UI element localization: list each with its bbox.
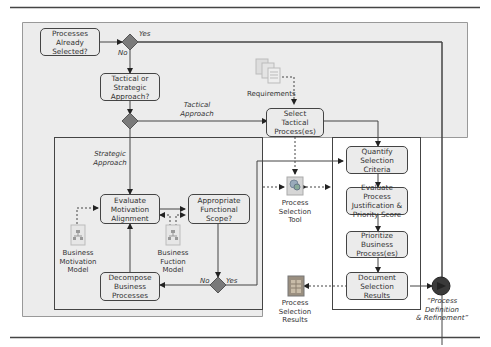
node-select-tactical: Select Tactical Process(es) bbox=[266, 108, 324, 137]
node-quantify-criteria: Quantify Selection Criteria bbox=[346, 146, 408, 174]
label-yes-top: Yes bbox=[139, 30, 150, 39]
node-document-results: Document Selection Results bbox=[346, 272, 408, 300]
label-requirements: Requirements bbox=[247, 90, 293, 99]
label-tactical-approach: Tactical Approach bbox=[172, 101, 222, 118]
label-strategic-approach: Strategic Approach bbox=[90, 150, 130, 167]
business-function-model-icon bbox=[165, 224, 181, 246]
node-processes-already-selected: Processes Already Selected? bbox=[40, 28, 100, 56]
end-event-label: “Process Definition & Refinement” bbox=[412, 297, 472, 323]
label-business-function-model: Business Fuction Model bbox=[150, 249, 196, 275]
label-process-selection-results: Process Selection Results bbox=[272, 299, 318, 325]
label-no-bottom: No bbox=[200, 277, 210, 286]
label-process-selection-tool: Process Selection Tool bbox=[272, 199, 318, 225]
process-selection-results-icon bbox=[287, 275, 305, 297]
requirements-documents-icon bbox=[254, 57, 282, 85]
node-tactical-or-strategic: Tactical or Strategic Approach? bbox=[100, 73, 160, 101]
label-yes-bottom: Yes bbox=[226, 277, 237, 286]
node-appropriate-scope: Appropriate Functional Scope? bbox=[188, 194, 250, 224]
node-decompose-business: Decompose Business Processes bbox=[100, 272, 160, 301]
process-selection-tool-icon bbox=[286, 176, 304, 196]
node-prioritize-business: Prioritize Business Process(es) bbox=[346, 231, 408, 258]
node-evaluate-process: Evaluate Process Justification & Priorit… bbox=[346, 187, 408, 215]
label-business-motivation-model: Business Motivation Model bbox=[54, 249, 102, 275]
node-evaluate-motivation: Evaluate Motivation Alignment bbox=[100, 194, 160, 224]
business-motivation-model-icon bbox=[70, 224, 86, 246]
label-no-top: No bbox=[118, 49, 128, 58]
